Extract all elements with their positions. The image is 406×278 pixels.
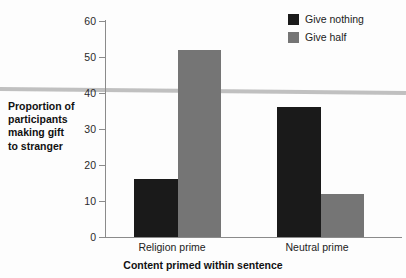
chart-figure: 60 50 40 30 20 10 0 Proportion of partic… bbox=[0, 0, 406, 278]
plot-area bbox=[105, 21, 400, 237]
ytick-label-20: 20 bbox=[54, 160, 96, 171]
legend-label-give-nothing: Give nothing bbox=[305, 14, 364, 25]
x-axis-title: Content primed within sentence bbox=[0, 259, 406, 271]
legend-label-give-half: Give half bbox=[305, 32, 346, 43]
bar-neutral-give-nothing[interactable] bbox=[277, 107, 321, 237]
bar-neutral-give-half[interactable] bbox=[321, 194, 364, 237]
legend: Give nothing Give half bbox=[288, 12, 364, 48]
y-axis-title-line-3: making gift bbox=[8, 126, 100, 139]
x-axis-line bbox=[105, 237, 402, 238]
legend-item-give-half[interactable]: Give half bbox=[288, 30, 364, 45]
xtick-label-neutral-prime: Neutral prime bbox=[262, 241, 372, 253]
ytick-label-40: 40 bbox=[54, 88, 96, 99]
ytick-label-10: 10 bbox=[54, 196, 96, 207]
legend-swatch-icon-give-half bbox=[288, 32, 299, 43]
y-axis-title-line-4: to stranger bbox=[8, 140, 100, 153]
xtick-label-religion-prime: Religion prime bbox=[117, 241, 227, 253]
y-axis-title-line-2: participants bbox=[8, 113, 100, 126]
bar-religion-give-half[interactable] bbox=[178, 50, 221, 237]
legend-item-give-nothing[interactable]: Give nothing bbox=[288, 12, 364, 27]
y-axis-title: Proportion of participants making gift t… bbox=[8, 100, 100, 153]
bar-religion-give-nothing[interactable] bbox=[134, 179, 178, 237]
legend-swatch-icon-give-nothing bbox=[288, 14, 299, 25]
y-axis-title-line-1: Proportion of bbox=[8, 100, 100, 113]
ytick-label-0: 0 bbox=[54, 232, 96, 243]
ytick-label-50: 50 bbox=[54, 52, 96, 63]
ytick-label-60: 60 bbox=[54, 16, 96, 27]
